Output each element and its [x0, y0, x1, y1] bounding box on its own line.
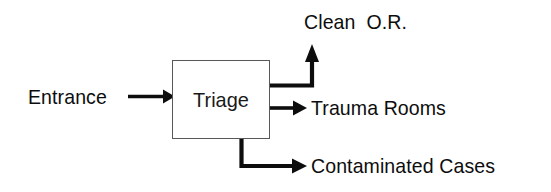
edge-entrance-to-triage	[128, 90, 175, 104]
node-triage: Triage	[172, 60, 270, 139]
edge-triage-to-trauma-rooms	[268, 101, 307, 116]
node-triage-label: Triage	[175, 61, 266, 138]
node-clean-or-label: Clean O.R.	[304, 11, 407, 32]
edge-triage-to-clean-or	[268, 44, 319, 86]
node-entrance-label: Entrance	[28, 86, 107, 107]
flow-diagram: Triage Entrance Clean O.R. Trauma Rooms …	[0, 0, 551, 192]
node-trauma-rooms-label: Trauma Rooms	[311, 97, 446, 118]
edge-triage-to-contaminated-cases	[242, 137, 308, 174]
node-contaminated-cases-label: Contaminated Cases	[311, 155, 495, 176]
